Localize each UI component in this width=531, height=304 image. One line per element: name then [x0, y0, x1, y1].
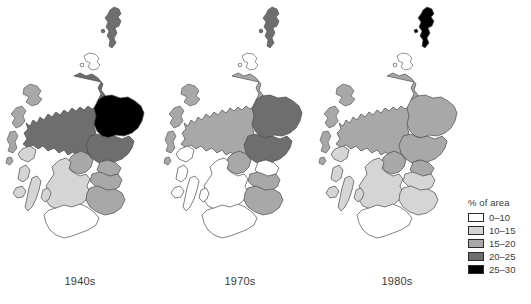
region-orkney	[397, 53, 413, 70]
map-panel-1940s: 1940s	[2, 0, 162, 304]
legend-label: 20–25	[489, 252, 515, 262]
region-western-isles-uist	[165, 131, 176, 153]
region-strathclyde-mull	[18, 146, 36, 162]
region-western-isles-harris	[169, 106, 184, 128]
region-shetland-islet	[101, 29, 105, 33]
region-strathclyde-islay	[171, 186, 184, 198]
map-caption: 1980s	[337, 275, 457, 287]
legend-row: 15–20	[464, 238, 530, 250]
region-orkney-islet	[80, 63, 84, 67]
region-tayside	[244, 134, 292, 163]
scotland-map-svg	[160, 2, 320, 274]
region-tayside	[86, 134, 134, 163]
choropleth-map-figure: 1940s	[0, 0, 531, 304]
legend-row: 25–30	[464, 264, 530, 276]
region-western-isles-barra	[164, 157, 171, 165]
region-western-isles-uist	[320, 131, 331, 153]
region-orkney	[242, 53, 258, 70]
legend-label: 0–10	[489, 213, 510, 223]
region-shetland-islet	[259, 29, 263, 33]
region-dumfries-galloway	[202, 204, 257, 238]
legend-row: 10–15	[464, 225, 530, 237]
map-panel-1970s: 1970s	[160, 0, 320, 304]
region-western-isles-harris	[324, 106, 339, 128]
legend-swatch	[468, 252, 484, 261]
region-tayside	[399, 134, 447, 163]
region-western-isles-lewis	[336, 84, 355, 106]
region-strathclyde-kintyre	[183, 176, 199, 211]
region-shetland	[263, 7, 279, 48]
legend: % of area 0–1010–1515–2020–2525–30	[464, 197, 530, 277]
map-panel-1980s: 1980s	[315, 0, 475, 304]
region-strathclyde-jura	[176, 165, 188, 182]
legend-row: 20–25	[464, 251, 530, 263]
region-strathclyde-jura	[331, 165, 343, 182]
region-strathclyde-islay	[13, 186, 26, 198]
legend-label: 10–15	[489, 226, 515, 236]
region-orkney-islet	[393, 63, 397, 67]
region-dumfries-galloway	[44, 204, 99, 238]
scotland-map-svg	[315, 2, 475, 274]
region-strathclyde-mull	[331, 146, 349, 162]
region-dumfries-galloway	[357, 204, 412, 238]
map-caption: 1970s	[180, 275, 300, 287]
region-grampian	[94, 95, 144, 138]
legend-title: % of area	[468, 197, 530, 208]
region-western-isles-lewis	[23, 84, 42, 106]
region-grampian	[252, 95, 302, 138]
region-shetland	[418, 7, 434, 48]
region-western-isles-barra	[6, 157, 13, 165]
legend-label: 15–20	[489, 239, 515, 249]
region-orkney-islet	[238, 63, 242, 67]
legend-row: 0–10	[464, 212, 530, 224]
region-orkney	[84, 53, 100, 70]
region-strathclyde-islay	[326, 186, 339, 198]
legend-swatch	[468, 265, 484, 274]
region-strathclyde-jura	[18, 165, 30, 182]
legend-swatch	[468, 226, 484, 235]
region-strathclyde-mull	[176, 146, 194, 162]
scotland-map-svg	[2, 2, 162, 274]
legend-label: 25–30	[489, 265, 515, 275]
legend-swatch	[468, 239, 484, 248]
legend-rows: 0–1010–1515–2020–2525–30	[464, 212, 530, 276]
region-western-isles-harris	[11, 106, 26, 128]
region-shetland-islet	[414, 29, 418, 33]
region-shetland	[105, 7, 121, 48]
legend-swatch	[468, 213, 484, 222]
region-western-isles-lewis	[181, 84, 200, 106]
region-grampian	[407, 95, 457, 138]
map-caption: 1940s	[20, 275, 140, 287]
region-strathclyde-kintyre	[25, 176, 41, 211]
region-strathclyde-kintyre	[338, 176, 354, 211]
region-western-isles-barra	[319, 157, 326, 165]
region-western-isles-uist	[7, 131, 18, 153]
